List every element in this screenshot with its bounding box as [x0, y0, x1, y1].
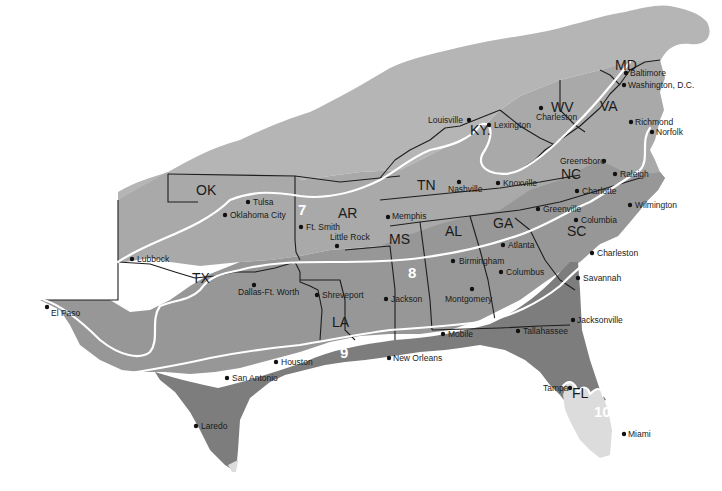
city-label: Tampa: [543, 383, 569, 393]
city-label: Wilmington: [635, 200, 677, 210]
city-label: Memphis: [392, 211, 426, 221]
hardiness-zone-map: 6 7 8 9 10 OK AR TX LA MS TN KY. AL GA S…: [0, 0, 722, 491]
city-label: Charleston: [597, 248, 638, 258]
city-label: Birmingham: [459, 256, 504, 266]
city-label: Mobile: [448, 329, 473, 339]
state-label-la: LA: [332, 314, 350, 330]
city-label: Savannah: [583, 273, 622, 283]
city-label: Little Rock: [330, 232, 370, 242]
city-label: San Antonio: [232, 373, 278, 383]
city-label: Nashville: [448, 184, 483, 194]
city-label: Louisville: [428, 115, 463, 125]
city-label: Ft. Smith: [306, 222, 340, 232]
zone-label-8: 8: [408, 264, 416, 281]
city-label: Houston: [281, 357, 313, 367]
city-label: Raleigh: [620, 169, 649, 179]
city-label: Richmond: [635, 117, 674, 127]
zone-label-7: 7: [298, 201, 306, 218]
city-label: Norfolk: [656, 127, 684, 137]
state-label-al: AL: [445, 223, 462, 239]
city-label: Tulsa: [253, 197, 274, 207]
west-blank: [0, 150, 118, 300]
state-label-sc: SC: [567, 223, 586, 239]
zone-label-9: 9: [340, 344, 348, 361]
city-label: Shreveport: [322, 290, 364, 300]
state-label-va: VA: [600, 98, 618, 114]
state-label-tx: TX: [192, 270, 211, 286]
state-label-fl: FL: [572, 385, 589, 401]
city-label: Knoxville: [503, 178, 537, 188]
city-label: El Paso: [51, 308, 81, 318]
city-label: Dallas-Ft. Worth: [238, 287, 300, 297]
city-label: Tallahassee: [523, 326, 568, 336]
city-label: New Orleans: [393, 353, 442, 363]
zone-label-10: 10: [594, 403, 611, 420]
zone-label-6: 6: [253, 116, 261, 133]
state-label-ok: OK: [196, 182, 217, 198]
city-label: Lexington: [494, 120, 531, 130]
city-label: Lubbock: [137, 254, 170, 264]
city-label: Oklahoma City: [230, 210, 286, 220]
city-label: Charlotte: [582, 186, 617, 196]
city-label: Washington, D.C.: [628, 80, 694, 90]
state-label-ga: GA: [493, 215, 514, 231]
state-label-ms: MS: [389, 231, 410, 247]
city-label: Jacksonville: [577, 315, 623, 325]
state-label-ar: AR: [338, 205, 357, 221]
city-label: Miami: [628, 429, 651, 439]
state-label-nc: NC: [561, 166, 581, 182]
city-label: Atlanta: [508, 240, 535, 250]
city-label: Columbus: [506, 267, 544, 277]
state-label-tn: TN: [417, 177, 436, 193]
city-label: Greensboro: [560, 156, 605, 166]
city-label: Baltimore: [630, 68, 666, 78]
city-label: Charleston: [536, 112, 577, 122]
city-label: Columbia: [581, 215, 617, 225]
city-label: Jackson: [391, 294, 422, 304]
city-label: Montgomery: [445, 294, 493, 304]
city-label: Laredo: [201, 421, 228, 431]
city-label: Greenville: [543, 204, 582, 214]
